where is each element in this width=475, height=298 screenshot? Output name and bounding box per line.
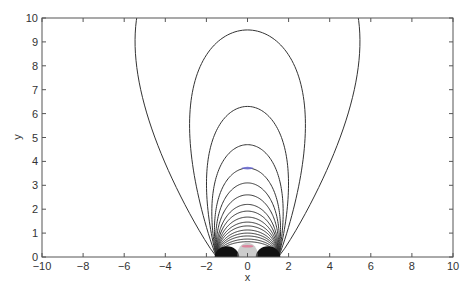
y-tick-label: 0 [32,251,38,263]
x-tick-label: −6 [118,260,131,272]
y-axis-label: y [11,134,23,140]
x-tick-label: −8 [77,260,90,272]
x-tick-label: −4 [159,260,172,272]
contour-chart: −10−8−6−4−20246810 012345678910 x y [0,0,475,298]
tint-marker [242,167,254,170]
x-axis-label: x [245,271,251,283]
y-tick-label: 10 [26,12,38,24]
x-tick-label: 6 [368,260,374,272]
y-tick-label: 9 [32,36,38,48]
x-tick-label: 2 [286,260,292,272]
tint-marker [242,245,254,248]
x-tick-label: 8 [409,260,415,272]
plot-area [42,18,453,257]
x-tick-label: −2 [200,260,213,272]
y-tick-label: 4 [32,155,38,167]
y-tick-label: 7 [32,84,38,96]
y-tick-label: 2 [32,203,38,215]
y-tick-label: 6 [32,108,38,120]
y-tick-label: 1 [32,227,38,239]
x-tick-label: 4 [327,260,333,272]
y-tick-label: 3 [32,179,38,191]
y-tick-label: 8 [32,60,38,72]
y-tick-label: 5 [32,132,38,144]
x-tick-label: 10 [447,260,459,272]
